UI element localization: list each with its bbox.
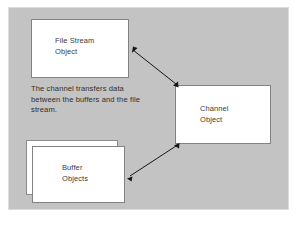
- node-file-stream-object-label: File Stream Object: [55, 36, 94, 57]
- diagram-canvas: File Stream Object The channel transfers…: [0, 0, 296, 226]
- channel-transfer-note: The channel transfers data between the b…: [31, 84, 141, 116]
- node-buffer-objects-label: Buffer Objects: [62, 163, 88, 184]
- node-channel-object-label: Channel Object: [200, 104, 229, 125]
